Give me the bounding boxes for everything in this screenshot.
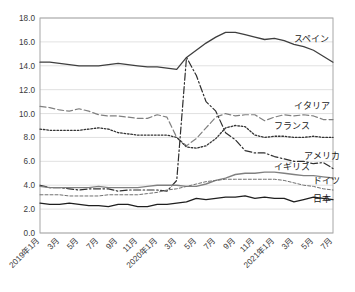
y-tick-label: 6.0 [24, 157, 36, 166]
x-tick-label: 3月 [46, 236, 61, 251]
line-chart: 0.02.04.06.08.010.012.014.016.018.0 2019… [0, 0, 355, 292]
data-series-lines [40, 32, 333, 206]
chart-canvas: 0.02.04.06.08.010.012.014.016.018.0 2019… [0, 0, 355, 292]
series-label-フランス: フランス [274, 121, 310, 131]
series-label-日本: 日本 [313, 193, 331, 204]
x-tick-label: 5月 [182, 236, 197, 251]
x-tick-label: 9月 [222, 236, 237, 251]
series-label-イタリア: イタリア [294, 101, 330, 111]
y-tick-label: 8.0 [24, 133, 36, 142]
x-tick-label: 7月 [319, 236, 334, 251]
y-tick-label: 4.0 [24, 181, 36, 190]
series-label-ドイツ: ドイツ [313, 176, 340, 186]
x-tick-label: 3月 [163, 236, 178, 251]
y-tick-label: 18.0 [19, 14, 35, 23]
x-tick-label: 5月 [65, 236, 80, 251]
series-label-スペイン: スペイン [294, 34, 329, 44]
series-label-アメリカ: アメリカ [304, 151, 340, 161]
x-tick-label: 3月 [280, 236, 295, 251]
y-tick-label: 12.0 [19, 86, 35, 95]
y-tick-label: 14.0 [19, 62, 35, 71]
x-tick-label: 7月 [202, 236, 217, 251]
x-tick-label: 9月 [104, 236, 119, 251]
series-line-日本 [40, 196, 333, 207]
series-labels: スペインイタリアフランスアメリカイギリスドイツ日本 [274, 34, 340, 204]
series-label-イギリス: イギリス [274, 162, 310, 172]
x-axis-tick-labels: 2019年1月3月5月7月9月11月2020年1月3月5月7月9月11月2021… [7, 235, 334, 269]
x-tick-label: 7月 [85, 236, 100, 251]
y-axis-tick-labels: 0.02.04.06.08.010.012.014.016.018.0 [19, 14, 35, 238]
y-tick-label: 10.0 [19, 110, 35, 119]
x-tick-label: 5月 [300, 236, 315, 251]
y-tick-label: 16.0 [19, 38, 35, 47]
x-tick-label: 2019年1月 [7, 235, 41, 269]
y-tick-label: 2.0 [24, 205, 36, 214]
